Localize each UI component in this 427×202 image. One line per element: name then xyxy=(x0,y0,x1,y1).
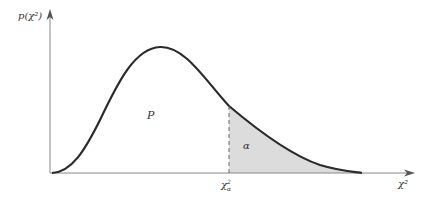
alpha-region-label: α xyxy=(243,140,250,151)
acceptance-region-label: P xyxy=(147,109,154,122)
density-curve xyxy=(52,47,362,173)
x-axis-label: χ² xyxy=(398,178,408,189)
chi-square-diagram xyxy=(0,0,427,202)
critical-value-label: χ2α xyxy=(221,178,231,192)
y-axis-label: p(χ²) xyxy=(18,10,42,21)
